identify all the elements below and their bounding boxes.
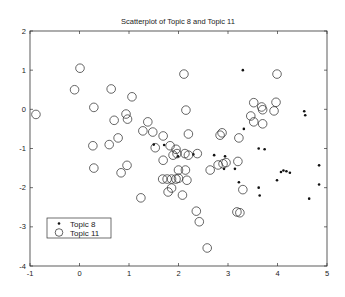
x-tick-label: -1 — [27, 269, 34, 278]
data-point-dot — [318, 183, 321, 186]
y-tick-label: 2 — [22, 27, 26, 36]
data-point-dot — [242, 69, 245, 72]
data-point-dot — [318, 164, 321, 167]
data-point-dot — [285, 170, 288, 173]
x-tick-label: 0 — [77, 269, 81, 278]
data-point-dot — [289, 171, 292, 174]
x-tick-label: 5 — [325, 269, 329, 278]
x-tick-label: 3 — [226, 269, 230, 278]
data-point-dot — [163, 144, 166, 147]
chart-title: Scatterplot of Topic 8 and Topic 11 — [121, 17, 235, 26]
data-point-dot — [224, 155, 227, 158]
y-tick-label: -1 — [19, 144, 26, 153]
legend: Topic 8 Topic 11 — [47, 218, 111, 238]
data-point-dot — [303, 110, 306, 113]
y-tick-label: 0 — [22, 105, 26, 114]
x-tick-label: 2 — [176, 269, 180, 278]
x-tick-label: 4 — [275, 269, 279, 278]
scatter-chart: Scatterplot of Topic 8 and Topic 11 -101… — [0, 0, 345, 297]
legend-label-topic-8: Topic 8 — [70, 220, 96, 229]
data-point-dot — [257, 186, 260, 189]
x-tick-label: 1 — [127, 269, 131, 278]
data-point-dot — [234, 168, 237, 171]
legend-label-topic-11: Topic 11 — [70, 229, 100, 238]
data-point-dot — [238, 181, 241, 184]
data-point-dot — [257, 147, 260, 150]
data-point-dot — [213, 154, 216, 157]
data-point-dot — [282, 169, 285, 172]
legend-dot-icon — [58, 222, 61, 225]
data-point-dot — [280, 171, 283, 174]
y-tick-label: -3 — [19, 222, 26, 231]
y-tick-label: -2 — [19, 183, 26, 192]
data-point-dot — [304, 114, 307, 117]
data-point-dot — [308, 197, 311, 200]
data-point-dot — [276, 179, 279, 182]
data-point-dot — [263, 148, 266, 151]
data-point-dot — [258, 194, 261, 197]
data-point-dot — [243, 128, 246, 131]
y-tick-label: 1 — [22, 66, 26, 75]
y-tick-label: -4 — [19, 262, 26, 271]
